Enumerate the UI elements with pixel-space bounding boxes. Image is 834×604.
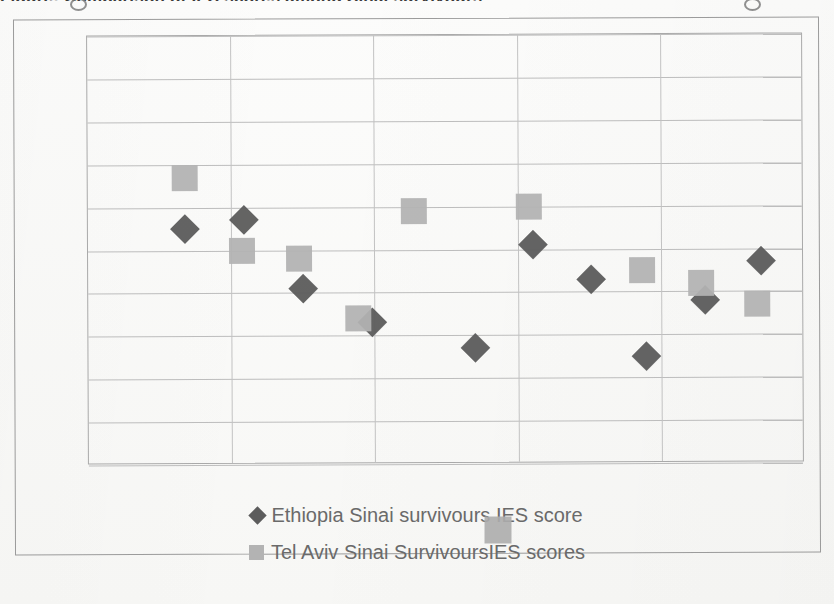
gridline-vertical <box>660 34 663 461</box>
legend-label-telaviv: Tel Aviv Sinai SurvivoursIES scores <box>271 541 585 564</box>
data-point-square[interactable] <box>688 270 714 296</box>
gridline-horizontal <box>87 76 801 80</box>
gridline-horizontal <box>89 377 803 381</box>
chart-legend: Ethiopia Sinai survivours IES score Tel … <box>0 498 834 574</box>
data-point-diamond[interactable] <box>518 230 548 260</box>
data-point-diamond[interactable] <box>746 246 776 276</box>
data-point-square[interactable] <box>285 246 311 272</box>
data-point-square[interactable] <box>629 257 655 283</box>
data-point-square[interactable] <box>744 291 770 317</box>
gridline-horizontal <box>89 420 803 424</box>
data-point-square[interactable] <box>401 198 427 224</box>
chart-canvas: 1009080706050403020100 Ethiopia Sinai su… <box>0 0 834 604</box>
square-marker-icon <box>249 545 264 560</box>
gridline-vertical <box>517 35 520 462</box>
diamond-marker-icon <box>249 506 267 524</box>
data-point-diamond[interactable] <box>631 341 661 371</box>
data-point-square[interactable] <box>345 305 371 331</box>
gridline-horizontal <box>88 248 802 252</box>
data-point-diamond[interactable] <box>229 205 259 235</box>
data-point-diamond[interactable] <box>577 264 607 294</box>
data-point-square[interactable] <box>516 193 542 219</box>
data-point-square[interactable] <box>171 165 197 191</box>
data-point-diamond[interactable] <box>461 333 491 363</box>
gridline-horizontal <box>88 334 802 338</box>
legend-item-telaviv[interactable]: Tel Aviv Sinai SurvivoursIES scores <box>0 541 834 564</box>
gridline-horizontal <box>88 205 802 209</box>
gridline-horizontal <box>89 462 803 466</box>
gridline-horizontal <box>87 119 801 123</box>
stray-square-marker-icon <box>485 517 512 544</box>
legend-item-ethiopia[interactable]: Ethiopia Sinai survivours IES score <box>0 504 834 527</box>
data-point-diamond[interactable] <box>170 214 200 244</box>
legend-label-ethiopia: Ethiopia Sinai survivours IES score <box>271 504 582 527</box>
gridline-vertical <box>373 35 376 462</box>
data-point-diamond[interactable] <box>288 274 318 304</box>
plot-area <box>86 32 804 464</box>
data-point-square[interactable] <box>229 237 255 263</box>
